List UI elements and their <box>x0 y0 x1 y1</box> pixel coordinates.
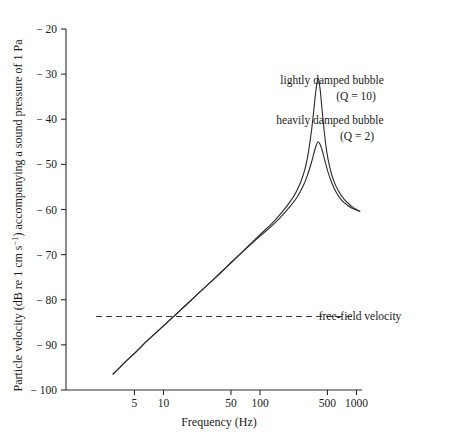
lightly-damped-label-line1: lightly damped bubble <box>280 74 383 87</box>
y-axis-title-lead: Particle velocity (dB re 1 cm s <box>11 245 25 391</box>
y-tick-label-7: − 90 <box>36 339 57 351</box>
y-tick-label-6: − 80 <box>36 294 57 306</box>
y-tick-label-3: − 50 <box>36 158 57 170</box>
chart-background <box>0 0 465 440</box>
x-tick-label-4: 500 <box>319 397 337 409</box>
heavily-damped-label-line2: (Q = 2) <box>340 130 374 143</box>
x-tick-label-5: 1000 <box>345 397 368 409</box>
y-axis-title-tail: ) accompanying a sound pressure of 1 Pa <box>11 39 25 237</box>
x-tick-label-2: 50 <box>225 397 237 409</box>
x-tick-label-0: 5 <box>132 397 138 409</box>
y-tick-label-1: − 30 <box>36 68 57 80</box>
x-tick-label-3: 100 <box>251 397 269 409</box>
y-tick-label-2: − 40 <box>36 113 57 125</box>
y-axis-title: Particle velocity (dB re 1 cm s−1) accom… <box>10 39 25 392</box>
figure-container: − 20− 30− 40− 50− 60− 70− 80− 90− 100 51… <box>0 0 465 440</box>
x-axis-title: Frequency (Hz) <box>181 415 257 429</box>
heavily-damped-label-line1: heavily damped bubble <box>276 114 383 127</box>
lightly-damped-label-line2: (Q = 10) <box>336 90 376 103</box>
y-axis-title-exponent: −1 <box>10 236 20 245</box>
y-tick-label-0: − 20 <box>36 23 57 35</box>
y-tick-label-5: − 70 <box>36 249 57 261</box>
y-tick-label-8: − 100 <box>30 384 57 396</box>
x-tick-label-1: 10 <box>158 397 170 409</box>
y-tick-label-4: − 60 <box>36 204 57 216</box>
particle-velocity-chart: − 20− 30− 40− 50− 60− 70− 80− 90− 100 51… <box>0 0 465 440</box>
free-field-velocity-label: free-field velocity <box>319 310 402 323</box>
